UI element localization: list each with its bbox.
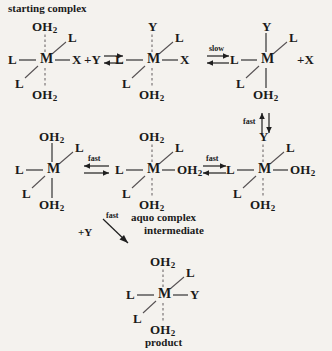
structure-6-top-entering-group: Y — [259, 130, 269, 143]
structure-3-bottom-atom: OH2 — [253, 88, 278, 103]
structure-5-metal-center: M — [147, 162, 160, 176]
structure-2-bottom-atom: OH2 — [139, 88, 164, 103]
structure-1-top-atom: OH2 — [32, 20, 57, 35]
structure-2-right-leaving-group: X — [180, 53, 190, 66]
structure-1-bottom-atom: OH2 — [32, 88, 57, 103]
structure-1-lower-left-ligand: L — [15, 77, 24, 90]
structure-3-metal-center: M — [261, 52, 274, 66]
structure-3-left-ligand: L — [230, 53, 239, 66]
structure-6-metal-center: M — [258, 162, 271, 176]
reaction-mechanism-diagram: starting complex OH2 L L M X L OH2 +Y Y … — [0, 0, 332, 351]
structure-5-top-atom: OH2 — [139, 130, 164, 145]
rate-label-slow: slow — [209, 45, 224, 53]
structure-1-left-ligand: L — [8, 53, 17, 66]
rate-label-fast-vertical: fast — [243, 118, 255, 126]
structure-7-metal-center: M — [158, 287, 171, 301]
structure-6-left-ligand: L — [226, 163, 235, 176]
structure-7-top-atom: OH2 — [150, 255, 175, 270]
reagent-plus-y-first: +Y — [84, 53, 101, 66]
structure-2-metal-center: M — [147, 52, 160, 66]
caption-starting-complex: starting complex — [8, 3, 87, 14]
caption-aquo-complex-line1: aquo complex — [131, 212, 196, 223]
structure-4-bottom-atom: OH2 — [39, 198, 64, 213]
structure-4-top-atom: OH2 — [39, 130, 64, 145]
rate-label-fast-left: fast — [88, 155, 100, 163]
structure-5-right-aquo: OH2 — [177, 163, 202, 178]
structure-4-upper-right-ligand: L — [75, 141, 84, 154]
structure-3-lower-left-ligand: L — [236, 77, 245, 90]
structure-7-lower-left-ligand: L — [133, 312, 142, 325]
structure-3-upper-right-ligand: L — [289, 31, 298, 44]
structure-6-lower-left-ligand: L — [233, 187, 242, 200]
structure-4-metal-center: M — [47, 162, 60, 176]
reagent-plus-x: +X — [297, 53, 314, 66]
caption-product: product — [145, 337, 182, 348]
structure-6-upper-right-ligand: L — [286, 141, 295, 154]
structure-5-lower-left-ligand: L — [122, 187, 131, 200]
caption-aquo-complex-line2: intermediate — [144, 225, 204, 236]
rate-label-fast-diagonal: fast — [106, 212, 118, 220]
structure-1-metal-center: M — [40, 52, 53, 66]
structure-1-upper-right-ligand: L — [68, 31, 77, 44]
structure-7-right-entering-group: Y — [190, 288, 200, 301]
structure-6-right-aquo: OH2 — [290, 163, 315, 178]
structure-1-right-leaving-group: X — [72, 53, 82, 66]
rate-label-fast-right: fast — [206, 155, 218, 163]
structure-6-bottom-atom: OH2 — [250, 198, 275, 213]
structure-7-upper-right-ligand: L — [186, 266, 195, 279]
structure-2-upper-right-ligand: L — [175, 31, 184, 44]
structure-2-lower-left-ligand: L — [122, 77, 131, 90]
structure-2-left-ligand: L — [115, 53, 124, 66]
structure-5-upper-right-ligand: L — [175, 141, 184, 154]
structure-2-top-entering-group: Y — [148, 20, 158, 33]
structure-4-lower-left-ligand: L — [22, 187, 31, 200]
structure-3-top-entering-group: Y — [262, 20, 272, 33]
structure-4-left-ligand: L — [15, 163, 24, 176]
structure-5-left-ligand: L — [115, 163, 124, 176]
structure-7-left-ligand: L — [126, 288, 135, 301]
reagent-plus-y-second: +Y — [78, 227, 92, 238]
